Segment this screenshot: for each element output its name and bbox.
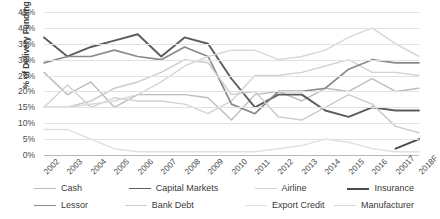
gridline bbox=[44, 107, 419, 108]
legend-row: CashCapital MarketsAirlineInsurance bbox=[34, 180, 414, 197]
x-axis-tick-label: 2012 bbox=[276, 157, 295, 176]
y-axis-tick-label: 15% bbox=[1, 102, 35, 112]
x-axis-line bbox=[44, 155, 419, 156]
x-axis-tick-label: 2002 bbox=[42, 157, 61, 176]
x-axis-tick-label: 2008 bbox=[183, 157, 202, 176]
gridline bbox=[44, 123, 419, 124]
x-axis-tick-label: 2009 bbox=[206, 157, 225, 176]
legend-label: Insurance bbox=[374, 184, 414, 193]
legend-item-export-credit[interactable]: Export Credit bbox=[245, 201, 334, 210]
legend-item-capital-markets[interactable]: Capital Markets bbox=[129, 184, 255, 193]
y-axis-tick-label: 5% bbox=[1, 134, 35, 144]
x-axis-tick-label: 2010 bbox=[230, 157, 249, 176]
y-axis-tick-label: 20% bbox=[1, 86, 35, 96]
x-axis-tick-label: 2007 bbox=[159, 157, 178, 176]
gridline bbox=[44, 44, 419, 45]
legend-swatch-icon bbox=[34, 188, 56, 189]
plot-area: 0%5%10%15%20%25%30%35%40%45%200220032004… bbox=[44, 12, 419, 155]
legend-item-bank-debt[interactable]: Bank Debt bbox=[125, 201, 245, 210]
y-axis-tick-label: 35% bbox=[1, 39, 35, 49]
x-axis-tick-label: 2015 bbox=[347, 157, 366, 176]
legend-swatch-icon bbox=[34, 205, 56, 206]
gridline bbox=[44, 139, 419, 140]
y-axis-tick-label: 25% bbox=[1, 71, 35, 81]
x-axis-tick-label: 20017 bbox=[394, 154, 416, 176]
legend-swatch-icon bbox=[129, 188, 151, 189]
x-axis-tick-label: 2013 bbox=[300, 157, 319, 176]
y-axis-tick-label: 40% bbox=[1, 23, 35, 33]
gridline bbox=[44, 60, 419, 61]
legend-item-lessor[interactable]: Lessor bbox=[34, 201, 125, 210]
y-axis-tick-label: 45% bbox=[1, 7, 35, 17]
y-axis-tick-label: 0% bbox=[1, 150, 35, 160]
x-axis-tick-label: 2003 bbox=[65, 157, 84, 176]
x-axis-tick-label: 2004 bbox=[89, 157, 108, 176]
x-axis-tick-label: 2014 bbox=[323, 157, 342, 176]
y-axis-tick-label: 10% bbox=[1, 118, 35, 128]
x-axis-tick-label: 2006 bbox=[136, 157, 155, 176]
legend-row: LessorBank DebtExport CreditManufacturer bbox=[34, 197, 414, 214]
x-axis-tick-label: 2016 bbox=[370, 157, 389, 176]
legend-label: Capital Markets bbox=[156, 184, 219, 193]
series-line bbox=[44, 60, 419, 114]
x-axis-tick-label: 2011 bbox=[253, 158, 272, 177]
legend-label: Bank Debt bbox=[152, 201, 194, 210]
series-lines bbox=[44, 12, 419, 155]
series-line bbox=[396, 139, 419, 149]
legend-swatch-icon bbox=[125, 205, 147, 206]
chart-legend: CashCapital MarketsAirlineInsuranceLesso… bbox=[34, 180, 414, 214]
x-axis-tick-label: 2018F bbox=[417, 154, 440, 177]
legend-item-airline[interactable]: Airline bbox=[255, 184, 348, 193]
gridline bbox=[44, 91, 419, 92]
legend-label: Cash bbox=[61, 184, 82, 193]
y-axis-tick-label: 30% bbox=[1, 55, 35, 65]
gridline bbox=[44, 12, 419, 13]
legend-item-insurance[interactable]: Insurance bbox=[347, 184, 414, 193]
legend-swatch-icon bbox=[334, 205, 356, 206]
series-line bbox=[44, 60, 419, 133]
legend-label: Export Credit bbox=[272, 201, 325, 210]
legend-label: Manufacturer bbox=[361, 201, 414, 210]
x-axis-tick-label: 2005 bbox=[112, 157, 131, 176]
legend-label: Airline bbox=[282, 184, 307, 193]
gridline bbox=[44, 76, 419, 77]
gridline bbox=[44, 28, 419, 29]
legend-item-cash[interactable]: Cash bbox=[34, 184, 129, 193]
legend-label: Lessor bbox=[61, 201, 88, 210]
legend-item-manufacturer[interactable]: Manufacturer bbox=[334, 201, 414, 210]
series-line bbox=[44, 130, 419, 152]
legend-swatch-icon bbox=[255, 188, 277, 189]
legend-swatch-icon bbox=[347, 188, 369, 190]
legend-swatch-icon bbox=[245, 205, 267, 206]
